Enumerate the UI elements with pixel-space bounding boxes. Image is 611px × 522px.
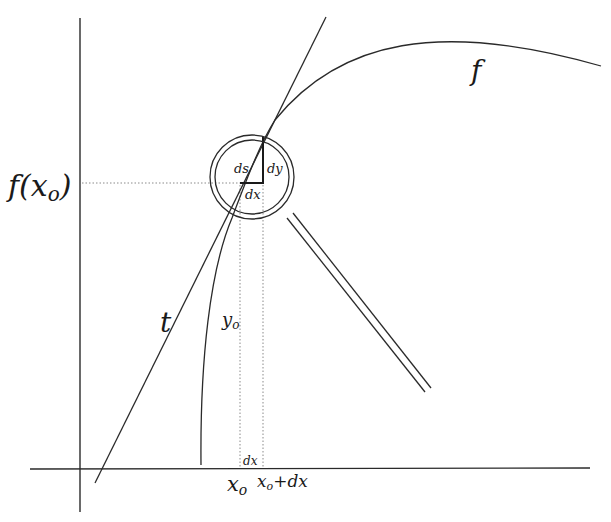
ds-label: ds [234,161,249,176]
magnifier-inner-ring [215,140,289,214]
arc-length-diagram: f(xo) f t yo ds dy dx dx xo xo+dx [0,0,611,522]
dx-triangle-label: dx [245,187,261,202]
magnifier-handle-left [287,218,425,392]
differential-triangle [240,137,263,183]
dx-axis-label: dx [243,454,258,468]
curve-f-label: f [469,54,486,87]
y0-label: yo [221,309,239,332]
x0-label: xo [227,472,247,498]
f-x0-label: f(xo) [6,168,72,206]
tangent-line [95,17,326,483]
x0-plus-dx-label: xo+dx [257,471,308,493]
dy-label: dy [267,161,283,176]
magnifier-outer-ring [210,135,294,219]
tangent-t-label: t [160,306,172,339]
curve-f [201,42,601,465]
magnifier-handle-right [293,213,431,388]
x-axis [30,468,590,469]
